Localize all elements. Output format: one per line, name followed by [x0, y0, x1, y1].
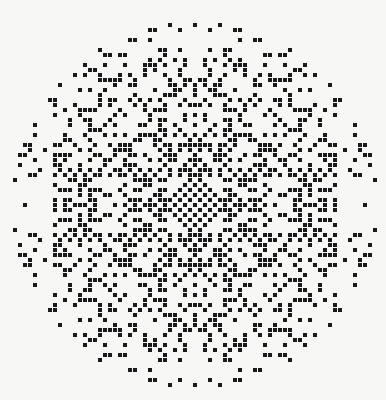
- dot-matrix-mandala: [0, 0, 386, 400]
- pattern-stage: [0, 0, 386, 400]
